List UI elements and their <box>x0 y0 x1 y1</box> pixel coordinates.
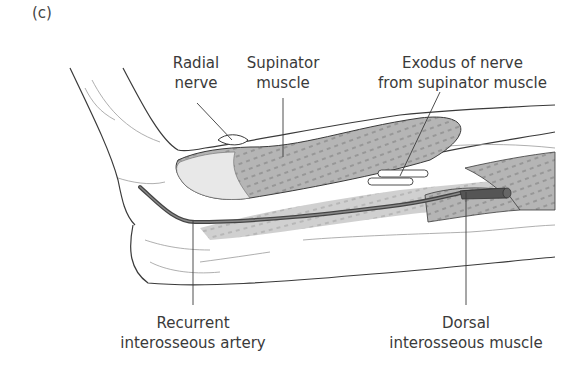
label-dorsal-interosseous-muscle: Dorsal interosseous muscle <box>376 313 556 353</box>
nerve-branch-2 <box>368 178 413 185</box>
label-exodus-of-nerve: Exodus of nerve from supinator muscle <box>360 53 565 93</box>
label-supinator-muscle: Supinator muscle <box>233 53 333 93</box>
nerve-branch-1 <box>378 170 428 177</box>
label-radial-nerve: Radial nerve <box>146 53 246 93</box>
leader-radial-nerve <box>197 103 232 140</box>
label-recurrent-interosseous-artery: Recurrent interosseous artery <box>113 313 273 353</box>
upper-arm-contours <box>85 80 165 184</box>
radial-nerve-shape <box>218 135 248 145</box>
